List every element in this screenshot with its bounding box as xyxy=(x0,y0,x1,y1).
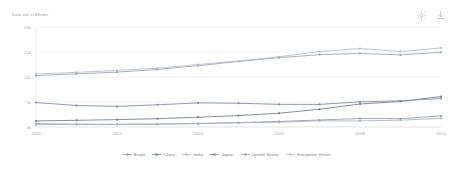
series-point-marker xyxy=(319,51,321,53)
series-point-marker xyxy=(359,120,361,122)
legend-item[interactable]: European Union xyxy=(286,152,330,157)
legend-swatch-icon xyxy=(286,152,295,157)
legend-item[interactable]: United States xyxy=(241,152,280,157)
legend-swatch-icon xyxy=(152,152,161,157)
series-point-marker xyxy=(35,75,37,77)
series-point-marker xyxy=(238,102,240,104)
legend-item[interactable]: Brazil xyxy=(123,152,146,157)
series-point-marker xyxy=(359,101,361,103)
series-line xyxy=(36,52,441,75)
series-point-marker xyxy=(319,120,321,122)
series-point-marker xyxy=(76,105,78,107)
series-point-marker xyxy=(35,120,37,122)
series-point-marker xyxy=(157,123,159,125)
series-point-marker xyxy=(278,103,280,105)
legend-item-label: Brazil xyxy=(134,152,146,157)
series-point-marker xyxy=(238,122,240,124)
series-point-marker xyxy=(440,115,442,117)
series-point-marker xyxy=(157,104,159,106)
series-point-marker xyxy=(278,112,280,114)
line-chart-widget: Data are in billions 0k5k10k15k20k200020… xyxy=(0,0,453,175)
series-point-marker xyxy=(116,70,118,72)
legend-item-label: European Union xyxy=(297,152,330,157)
legend-item[interactable]: Japan xyxy=(210,152,233,157)
x-axis-tick-label: 2004 xyxy=(193,131,203,136)
series-point-marker xyxy=(116,71,118,73)
series-point-marker xyxy=(116,106,118,108)
series-point-marker xyxy=(76,119,78,121)
legend-item-label: India xyxy=(193,152,203,157)
x-axis-tick-label: 2006 xyxy=(274,131,284,136)
series-point-marker xyxy=(400,51,402,53)
y-axis-tick-label: 15k xyxy=(24,50,32,55)
series-point-marker xyxy=(440,47,442,49)
y-axis-tick-label: 5k xyxy=(26,100,31,105)
legend-item-label: United States xyxy=(252,152,280,157)
series-point-marker xyxy=(197,102,199,104)
series-point-marker xyxy=(197,122,199,124)
series-point-marker xyxy=(76,124,78,126)
legend-swatch-icon xyxy=(123,152,132,157)
series-point-marker xyxy=(319,108,321,110)
series-point-marker xyxy=(278,56,280,58)
series-point-marker xyxy=(157,67,159,69)
y-axis-tick-label: 0k xyxy=(26,125,31,130)
series-point-marker xyxy=(35,124,37,126)
series-point-marker xyxy=(359,53,361,55)
series-point-marker xyxy=(116,123,118,125)
series-point-marker xyxy=(440,98,442,100)
y-axis-tick-label: 10k xyxy=(24,75,32,80)
legend-item-label: China xyxy=(163,152,175,157)
series-point-marker xyxy=(238,115,240,117)
x-axis-tick-label: 2002 xyxy=(112,131,122,136)
series-point-marker xyxy=(238,60,240,62)
legend-swatch-icon xyxy=(182,152,191,157)
series-point-marker xyxy=(197,64,199,66)
series-point-marker xyxy=(35,73,37,75)
series-point-marker xyxy=(197,116,199,118)
series-point-marker xyxy=(400,54,402,56)
x-axis-tick-label: 2008 xyxy=(355,131,365,136)
series-point-marker xyxy=(440,118,442,120)
x-axis-tick-label: 2000 xyxy=(31,131,41,136)
series-point-marker xyxy=(76,72,78,74)
series-point-marker xyxy=(319,104,321,106)
series-line xyxy=(36,97,441,121)
series-point-marker xyxy=(440,51,442,53)
series-point-marker xyxy=(400,100,402,102)
series-point-marker xyxy=(319,54,321,56)
series-point-marker xyxy=(440,96,442,98)
plot-area: 0k5k10k15k20k200020022004200620082010 xyxy=(0,20,453,145)
series-point-marker xyxy=(116,119,118,121)
series-point-marker xyxy=(359,103,361,105)
chart-legend: BrazilChinaIndiaJapanUnited StatesEurope… xyxy=(0,152,453,157)
series-point-marker xyxy=(278,121,280,123)
series-point-marker xyxy=(400,119,402,121)
series-point-marker xyxy=(359,118,361,120)
x-axis-tick-label: 2010 xyxy=(436,131,446,136)
axis-unit-note: Data are in billions xyxy=(12,12,48,17)
legend-item[interactable]: China xyxy=(152,152,175,157)
series-point-marker xyxy=(359,48,361,50)
legend-item-label: Japan xyxy=(221,152,233,157)
legend-item[interactable]: India xyxy=(182,152,203,157)
series-point-marker xyxy=(35,102,37,104)
series-point-marker xyxy=(157,118,159,120)
y-axis-tick-label: 20k xyxy=(24,25,32,30)
legend-swatch-icon xyxy=(241,152,250,157)
legend-swatch-icon xyxy=(210,152,219,157)
